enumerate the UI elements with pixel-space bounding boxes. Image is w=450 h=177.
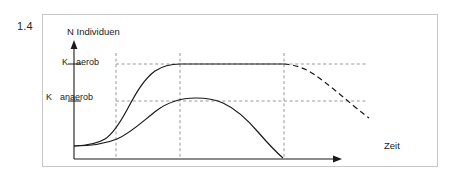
y-axis-label: N Individuen: [67, 26, 120, 37]
arrow-right-icon: [333, 156, 342, 163]
curve-anaerob: [74, 98, 283, 158]
plot-area: N Individuen Zeit Kaerob Kanaerob: [43, 15, 439, 168]
level-name-aerob: aerob: [68, 57, 99, 67]
level-label-k-anaerob: Kanaerob: [46, 92, 93, 102]
arrow-up-icon: [71, 40, 78, 49]
population-growth-chart: [43, 15, 439, 168]
figure-container: 1.4: [0, 0, 450, 177]
level-label-k-aerob: Kaerob: [62, 57, 99, 67]
level-name-anaerob: anaerob: [52, 92, 93, 102]
curve-aerob: [74, 64, 284, 146]
x-axis-label: Zeit: [384, 140, 400, 151]
curve-aerob-decline: [284, 64, 369, 118]
figure-frame: N Individuen Zeit Kaerob Kanaerob: [42, 14, 438, 167]
figure-number: 1.4: [17, 20, 33, 33]
